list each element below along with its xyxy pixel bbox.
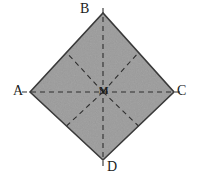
vertex-label-d: D (107, 160, 117, 174)
vertex-label-b: B (80, 2, 89, 16)
center-label-m: M (99, 86, 108, 96)
vertex-label-c: C (177, 84, 186, 98)
geometry-figure: A B C D M (0, 0, 198, 182)
vertex-label-a: A (13, 84, 23, 98)
